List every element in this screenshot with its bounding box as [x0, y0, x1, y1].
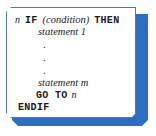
code-line-ellipsis-1: .: [8, 36, 134, 49]
code-line-goto: GO TOn: [8, 87, 134, 99]
statement-number-label: n: [15, 14, 20, 25]
pseudocode-figure: nIF(condition)THEN statement 1 . . . sta…: [0, 0, 156, 136]
keyword-then: THEN: [94, 15, 119, 26]
keyword-if: IF: [25, 15, 38, 26]
code-listing: nIF(condition)THEN statement 1 . . . sta…: [6, 7, 136, 118]
code-line-statement-m: statement m: [8, 75, 134, 87]
keyword-endif: ENDIF: [18, 102, 50, 113]
code-line-endif: ENDIF: [8, 99, 134, 111]
code-line-if: nIF(condition)THEN: [8, 12, 134, 24]
code-line-ellipsis-3: .: [8, 62, 134, 75]
code-line-ellipsis-2: .: [8, 49, 134, 62]
goto-target-label: n: [72, 89, 77, 100]
